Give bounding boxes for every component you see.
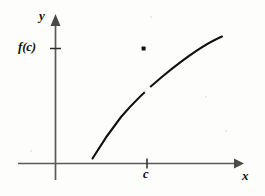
discontinuity-gap	[145, 87, 150, 92]
x-axis-label: x	[242, 169, 249, 182]
isolated-point-marker	[142, 47, 146, 51]
c-tick-label: c	[143, 168, 149, 181]
graph-svg	[0, 0, 265, 196]
fc-tick-label: f(c)	[18, 40, 36, 53]
x-axis-arrowhead-icon	[234, 159, 244, 169]
y-axis-arrowhead-icon	[51, 14, 61, 26]
figure-canvas: y x c f(c)	[0, 0, 265, 196]
function-curve	[93, 37, 223, 159]
y-axis-label: y	[39, 9, 45, 22]
